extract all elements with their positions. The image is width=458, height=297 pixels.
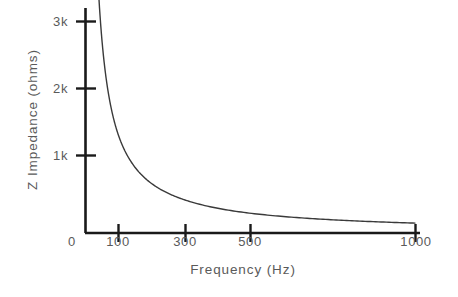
impedance-curve (97, 0, 415, 223)
y-axis-title: Z Impedance (ohms) (25, 25, 40, 215)
chart-figure: 3k 2k 1k 0 100 300 500 1000 Z Impedance … (0, 0, 458, 297)
y-tick-label-1k: 1k (36, 148, 68, 163)
y-tick-label-3k: 3k (36, 14, 68, 29)
x-tick-label-500: 500 (238, 234, 262, 249)
x-tick-label-1000: 1000 (400, 234, 431, 249)
y-tick-label-2k: 2k (36, 81, 68, 96)
plot-area (0, 0, 458, 297)
x-tick-label-0: 0 (68, 234, 76, 249)
x-tick-label-300: 300 (173, 234, 197, 249)
x-axis-title: Frequency (Hz) (143, 262, 343, 277)
x-tick-label-100: 100 (106, 234, 130, 249)
